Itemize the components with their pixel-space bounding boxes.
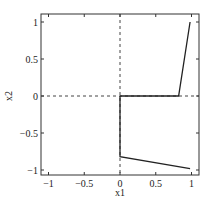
- x-tick-label: −1: [43, 178, 54, 189]
- y-axis-label: x2: [3, 91, 14, 101]
- series-group: [120, 22, 190, 169]
- x-tick-label: 1: [189, 178, 194, 189]
- y-tick-label: −1: [27, 165, 38, 176]
- chart: −1−0.500.5110.50−0.5−1 x1 x2: [0, 0, 209, 203]
- series-line-lower: [120, 96, 190, 169]
- x-axis-label: x1: [115, 187, 125, 198]
- series-line-upper: [120, 22, 190, 96]
- y-tick-label: −0.5: [20, 128, 38, 139]
- y-tick-label: 0: [33, 91, 38, 102]
- y-tick-label: 0.5: [26, 54, 39, 65]
- x-tick-label: −0.5: [75, 178, 93, 189]
- x-tick-label: 0.5: [150, 178, 163, 189]
- y-tick-label: 1: [33, 17, 38, 28]
- ticks-group: −1−0.500.5110.50−0.5−1: [20, 14, 199, 189]
